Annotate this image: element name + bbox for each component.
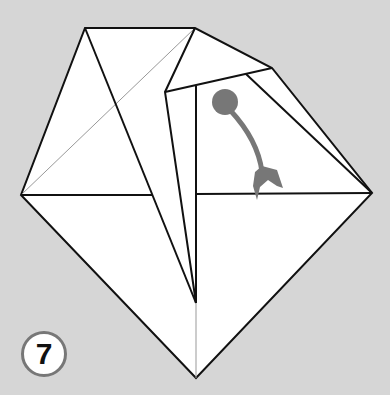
horizontal-fold-right bbox=[196, 193, 372, 194]
step-number-badge: 7 bbox=[21, 331, 67, 377]
step-number: 7 bbox=[36, 337, 53, 371]
origami-diagram: 7 bbox=[0, 0, 390, 395]
